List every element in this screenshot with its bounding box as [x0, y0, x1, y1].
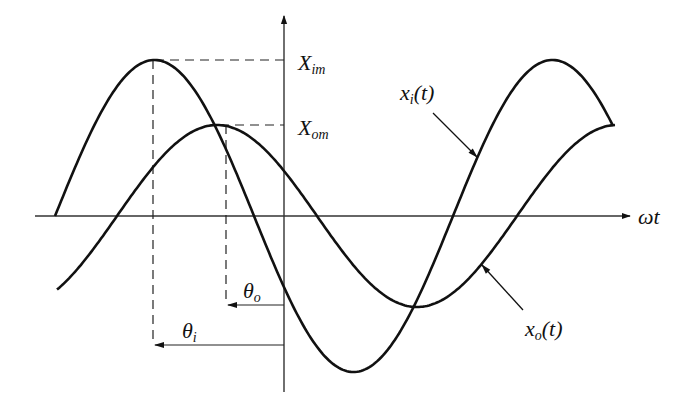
theta-o-label: θo — [243, 280, 261, 305]
xi-main: x — [400, 80, 410, 105]
x-om-main: X — [298, 115, 311, 140]
theta-o-main: θ — [243, 278, 254, 303]
omega-t-text: ωt — [638, 204, 660, 229]
xo-label: xo(t) — [525, 318, 563, 343]
xi-arg: (t) — [414, 80, 435, 105]
x-im-main: X — [298, 50, 311, 75]
theta-i-sub: i — [193, 330, 197, 345]
xo-main: x — [525, 316, 535, 341]
theta-i-main: θ — [182, 318, 193, 343]
theta-i-label: θi — [182, 320, 197, 345]
x-im-label: Xim — [298, 52, 325, 77]
xo-sub: o — [535, 328, 542, 343]
xo-pointer-arrow — [482, 265, 523, 310]
x-om-label: Xom — [298, 117, 329, 142]
amplitude-guides — [153, 60, 284, 345]
x-om-sub: om — [311, 127, 328, 142]
theta-o-sub: o — [254, 290, 261, 305]
xi-pointer-arrow — [433, 113, 477, 157]
xi-label: xi(t) — [400, 82, 434, 107]
phase-diagram — [0, 0, 690, 410]
x-im-sub: im — [311, 62, 325, 77]
xo-arg: (t) — [542, 316, 563, 341]
x-axis-label: ωt — [638, 206, 660, 228]
